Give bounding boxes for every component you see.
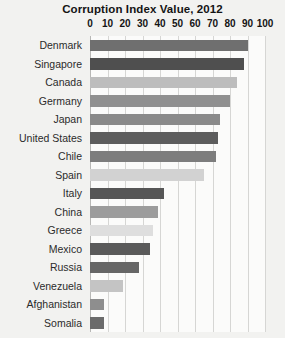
x-tick-label: 100 — [257, 18, 274, 29]
category-label: Russia — [50, 258, 82, 277]
bar — [90, 132, 218, 144]
x-tick-label: 90 — [242, 18, 253, 29]
bar — [90, 114, 220, 126]
bar-row: Germany — [0, 92, 285, 111]
x-tick-label: 70 — [207, 18, 218, 29]
bar-row: China — [0, 203, 285, 222]
category-label: Greece — [48, 221, 82, 240]
x-tick-label: 80 — [224, 18, 235, 29]
corruption-index-bar-chart: Corruption Index Value, 2012 01020304050… — [0, 0, 285, 338]
category-label: Chile — [58, 147, 82, 166]
bar-row: Russia — [0, 258, 285, 277]
bar-row: Greece — [0, 221, 285, 240]
bar — [90, 77, 237, 89]
bar — [90, 299, 104, 311]
bar — [90, 58, 244, 70]
category-label: Mexico — [49, 240, 82, 259]
x-tick-label: 60 — [189, 18, 200, 29]
bar-row: Venezuela — [0, 277, 285, 296]
bar-row: Mexico — [0, 240, 285, 259]
x-tick-label: 40 — [154, 18, 165, 29]
bar-rows: DenmarkSingaporeCanadaGermanyJapanUnited… — [0, 36, 285, 332]
x-tick-label: 10 — [102, 18, 113, 29]
x-axis-tick-labels: 0102030405060708090100 — [0, 18, 285, 34]
category-label: Japan — [53, 110, 82, 129]
x-tick-label: 20 — [119, 18, 130, 29]
bar — [90, 151, 216, 163]
bar — [90, 262, 139, 274]
bar-row: Spain — [0, 166, 285, 185]
category-label: Denmark — [39, 36, 82, 55]
chart-title: Corruption Index Value, 2012 — [0, 3, 285, 15]
bar — [90, 188, 164, 200]
bar-row: United States — [0, 129, 285, 148]
category-label: Canada — [45, 73, 82, 92]
bar — [90, 280, 123, 292]
bar — [90, 40, 248, 52]
category-label: Afghanistan — [27, 295, 82, 314]
bar — [90, 95, 230, 107]
bar — [90, 206, 158, 218]
category-label: United States — [19, 129, 82, 148]
bar — [90, 243, 150, 255]
bar-row: Canada — [0, 73, 285, 92]
bar-row: Singapore — [0, 55, 285, 74]
bar-row: Italy — [0, 184, 285, 203]
bar-row: Afghanistan — [0, 295, 285, 314]
bar — [90, 225, 153, 237]
bar-row: Japan — [0, 110, 285, 129]
category-label: Somalia — [44, 314, 82, 333]
category-label: Singapore — [34, 55, 82, 74]
bar-row: Denmark — [0, 36, 285, 55]
bar — [90, 317, 104, 329]
category-label: Italy — [63, 184, 82, 203]
x-tick-label: 0 — [87, 18, 93, 29]
category-label: Venezuela — [33, 277, 82, 296]
category-label: China — [55, 203, 82, 222]
bar — [90, 169, 204, 181]
category-label: Germany — [39, 92, 82, 111]
x-tick-label: 30 — [137, 18, 148, 29]
bar-row: Somalia — [0, 314, 285, 333]
category-label: Spain — [55, 166, 82, 185]
x-tick-label: 50 — [172, 18, 183, 29]
bar-row: Chile — [0, 147, 285, 166]
